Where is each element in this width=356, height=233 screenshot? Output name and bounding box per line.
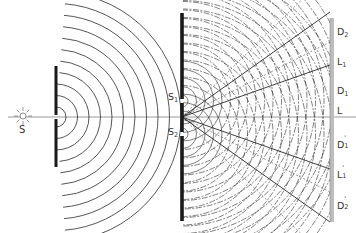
label-prime: ' (344, 135, 346, 142)
slit-s2-sub: 2 (174, 131, 178, 139)
label-base: L (337, 105, 342, 116)
light-source-icon (14, 107, 32, 125)
screen-label-d2: D2 (337, 27, 348, 39)
screen-label-d2-prime: D'2 (337, 199, 350, 211)
slit-s1-sub: 1 (174, 96, 178, 104)
source-label: S (19, 125, 25, 135)
label-sub: 1 (344, 143, 348, 150)
label-sub: 1 (342, 61, 346, 69)
screen-label-d1-prime: D'1 (337, 138, 350, 150)
double-slit-diagram (0, 0, 356, 233)
label-sub: 1 (344, 90, 348, 98)
label-base: D (337, 139, 344, 150)
screen-label-l: L (337, 106, 342, 116)
source-label-text: S (19, 124, 25, 135)
slit-label-s2: S2 (168, 127, 178, 139)
screen-label-l1-prime: L'1 (337, 168, 348, 180)
label-prime: ' (344, 196, 346, 203)
label-sub: 1 (342, 173, 346, 180)
incident-wavefronts (56, 0, 181, 233)
label-base: D (337, 200, 344, 211)
screen-label-d1: D1 (337, 86, 348, 98)
detection-screen (330, 18, 334, 222)
label-sub: 2 (344, 204, 348, 211)
slit-label-s1: S1 (168, 92, 178, 104)
label-prime: ' (342, 165, 344, 172)
label-sub: 2 (344, 31, 348, 39)
screen-label-l1: L1 (337, 57, 346, 69)
